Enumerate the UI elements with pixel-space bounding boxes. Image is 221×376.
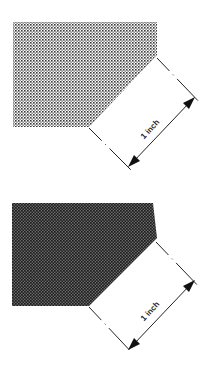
dimension-label: 1 inch xyxy=(139,300,161,323)
halftone-swatch-light xyxy=(13,22,157,127)
halftone-swatch-dark xyxy=(12,203,157,306)
extension-line-upper xyxy=(157,58,205,108)
figure-light-screen: 1 inch xyxy=(13,22,205,175)
halftone-diagram: 1 inch 1 inch xyxy=(0,0,221,376)
extension-line-lower xyxy=(89,128,136,175)
extension-line-upper xyxy=(156,242,204,292)
figure-dark-screen: 1 inch xyxy=(12,203,204,357)
dimension-label: 1 inch xyxy=(139,118,161,141)
